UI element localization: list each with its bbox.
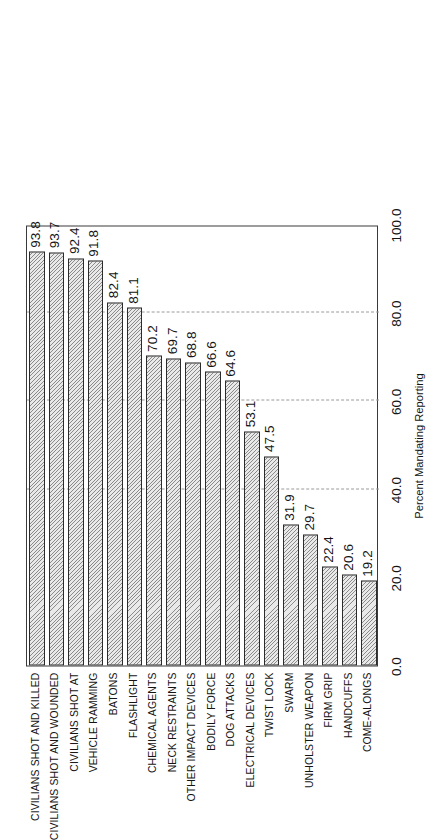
category-label: DOG ATTACKS <box>226 672 236 746</box>
bar <box>88 260 104 665</box>
bar-value-label: 82.4 <box>107 271 121 298</box>
bar <box>185 362 201 665</box>
category-label: VEHICLE RAMMING <box>89 672 99 772</box>
bar <box>107 302 123 665</box>
category-label: NECK RESTRAINTS <box>167 672 177 772</box>
category-label: FLASHLIGHT <box>128 672 138 738</box>
bar <box>127 307 143 665</box>
category-label: CIVILIANS SHOT AND WOUNDED <box>50 672 60 840</box>
axis-tick-label: 40.0 <box>390 476 404 502</box>
bar-value-label: 69.7 <box>166 327 180 354</box>
category-label: COME-ALONGS <box>363 672 373 752</box>
axis-tick-label: 80.0 <box>390 300 404 326</box>
plot-area <box>26 225 378 666</box>
bar <box>49 252 65 665</box>
category-label: FIRM GRIP <box>324 672 334 727</box>
bar <box>68 258 84 665</box>
category-label: SWARM <box>285 672 295 712</box>
category-label: BODILY FORCE <box>207 672 217 750</box>
bar <box>225 380 241 665</box>
axis-tick-label: 60.0 <box>390 388 404 414</box>
bar <box>361 580 377 665</box>
bar-value-label: 68.8 <box>185 331 199 358</box>
category-label: OTHER IMPACT DEVICES <box>187 672 197 801</box>
bar-value-label: 81.1 <box>127 277 141 304</box>
bar-value-label: 22.4 <box>322 536 336 563</box>
bar <box>166 358 182 665</box>
category-label: CIVILIANS SHOT AND KILLED <box>31 672 41 821</box>
category-label: BATONS <box>109 672 119 715</box>
bar <box>283 524 299 665</box>
category-label: ELECTRICAL DEVICES <box>246 672 256 787</box>
bar-value-label: 66.6 <box>205 341 219 368</box>
bar-value-label: 29.7 <box>303 503 317 530</box>
bar-value-label: 91.8 <box>88 229 102 256</box>
bar <box>146 355 162 665</box>
bar-value-label: 70.2 <box>146 325 160 352</box>
bar <box>205 371 221 665</box>
bar-value-label: 53.1 <box>244 400 258 427</box>
bar <box>29 251 45 665</box>
x-axis-title: Percent Mandating Reporting <box>414 373 425 519</box>
bar-value-label: 20.6 <box>342 543 356 570</box>
bar <box>264 456 280 665</box>
category-label: HANDCUFFS <box>343 672 353 737</box>
category-label: UNHOLSTER WEAPON <box>304 672 314 788</box>
bar-value-label: 93.7 <box>49 221 63 248</box>
axis-tick-label: 100.0 <box>390 208 404 242</box>
axis-tick-label: 20.0 <box>390 565 404 591</box>
bar-value-label: 31.9 <box>283 494 297 521</box>
category-label: CIVILIANS SHOT AT <box>70 672 80 771</box>
bar-value-label: 64.6 <box>225 349 239 376</box>
bar <box>322 566 338 665</box>
category-label: CHEMICAL AGENTS <box>148 672 158 773</box>
bar-value-label: 47.5 <box>264 425 278 452</box>
bar-value-label: 93.8 <box>29 221 43 248</box>
category-label: TWIST LOCK <box>265 672 275 737</box>
bar-value-label: 19.2 <box>361 550 375 577</box>
axis-tick-label: 0.0 <box>390 657 404 676</box>
bar <box>342 574 358 665</box>
bar-value-label: 92.4 <box>68 227 82 254</box>
bar <box>303 534 319 665</box>
bar <box>244 431 260 665</box>
